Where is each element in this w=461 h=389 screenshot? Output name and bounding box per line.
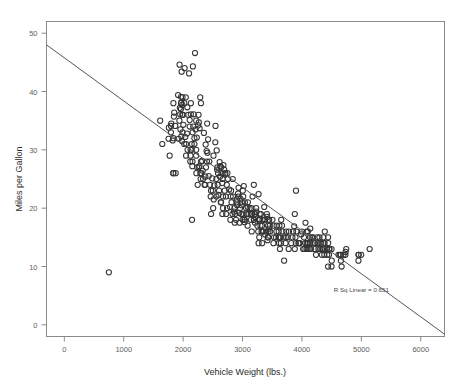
y-tick-label: 0 bbox=[33, 321, 37, 330]
x-axis-title: Vehicle Weight (lbs.) bbox=[204, 367, 286, 377]
y-tick-label: 10 bbox=[29, 263, 37, 272]
data-point bbox=[293, 188, 298, 193]
x-tick-label: 6000 bbox=[412, 345, 429, 354]
data-point bbox=[257, 235, 262, 240]
data-point bbox=[220, 211, 225, 216]
r-squared-annotation: R Sq Linear = 0.651 bbox=[334, 286, 390, 293]
data-point bbox=[205, 121, 210, 126]
data-point bbox=[329, 258, 334, 263]
svg-text:Miles per Gallon: Miles per Gallon bbox=[14, 146, 24, 211]
data-point bbox=[211, 153, 216, 158]
data-point bbox=[282, 258, 287, 263]
data-point bbox=[292, 211, 297, 216]
x-tick-label: 0 bbox=[62, 345, 66, 354]
data-point bbox=[256, 192, 261, 197]
data-point bbox=[208, 211, 213, 216]
data-point bbox=[313, 252, 318, 257]
x-tick-label: 3000 bbox=[234, 345, 251, 354]
data-point bbox=[201, 130, 206, 135]
data-point bbox=[213, 123, 218, 128]
data-point bbox=[106, 270, 111, 275]
data-point bbox=[294, 229, 299, 234]
data-point bbox=[286, 246, 291, 251]
data-point bbox=[187, 117, 192, 122]
data-point bbox=[292, 246, 297, 251]
data-point bbox=[277, 246, 282, 251]
x-tick-label: 4000 bbox=[294, 345, 311, 354]
x-tick-label: 1000 bbox=[115, 345, 132, 354]
data-point bbox=[181, 122, 186, 127]
data-point bbox=[192, 50, 197, 55]
data-point bbox=[171, 101, 176, 106]
data-point bbox=[211, 206, 216, 211]
data-point bbox=[195, 182, 200, 187]
data-point bbox=[190, 64, 195, 69]
data-point bbox=[229, 200, 234, 205]
data-point bbox=[158, 118, 163, 123]
data-point bbox=[329, 264, 334, 269]
data-point bbox=[270, 217, 275, 222]
data-point bbox=[205, 150, 210, 155]
scatter-plot-figure: 0100020003000400050006000 01020304050 R … bbox=[0, 0, 461, 389]
data-point bbox=[367, 246, 372, 251]
data-point bbox=[167, 153, 172, 158]
x-axis-ticks: 0100020003000400050006000 bbox=[62, 337, 429, 354]
data-point bbox=[245, 223, 250, 228]
data-point bbox=[198, 101, 203, 106]
y-tick-label: 40 bbox=[29, 88, 37, 97]
data-point bbox=[186, 71, 191, 76]
data-point bbox=[213, 140, 218, 145]
data-point bbox=[249, 229, 254, 234]
data-point bbox=[188, 101, 193, 106]
svg-text:Vehicle Weight (lbs.): Vehicle Weight (lbs.) bbox=[204, 367, 286, 377]
x-tick-label: 2000 bbox=[175, 345, 192, 354]
data-point bbox=[356, 258, 361, 263]
data-point bbox=[262, 204, 267, 209]
data-point bbox=[189, 217, 194, 222]
data-point bbox=[214, 148, 219, 153]
data-point bbox=[190, 130, 195, 135]
data-point bbox=[177, 62, 182, 67]
data-point bbox=[279, 217, 284, 222]
data-point bbox=[198, 95, 203, 100]
y-tick-label: 20 bbox=[29, 204, 37, 213]
y-tick-label: 50 bbox=[29, 29, 37, 38]
data-point bbox=[208, 194, 213, 199]
data-point bbox=[182, 66, 187, 71]
y-tick-label: 30 bbox=[29, 146, 37, 155]
data-point bbox=[203, 165, 208, 170]
y-axis-title: Miles per Gallon bbox=[14, 146, 24, 211]
data-point bbox=[303, 220, 308, 225]
data-point bbox=[179, 69, 184, 74]
data-point bbox=[251, 182, 256, 187]
svg-text:R Sq Linear = 0.651: R Sq Linear = 0.651 bbox=[334, 286, 390, 293]
chart-canvas: 0100020003000400050006000 01020304050 R … bbox=[0, 0, 461, 389]
data-point bbox=[260, 241, 265, 246]
x-tick-label: 5000 bbox=[353, 345, 370, 354]
data-point bbox=[322, 229, 327, 234]
data-point bbox=[160, 141, 165, 146]
data-point bbox=[203, 142, 208, 147]
data-points bbox=[106, 50, 372, 275]
data-point bbox=[271, 241, 276, 246]
data-point bbox=[205, 137, 210, 142]
y-axis-ticks: 01020304050 bbox=[29, 29, 46, 330]
data-point bbox=[339, 264, 344, 269]
